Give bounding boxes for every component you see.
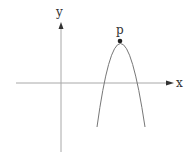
vertex-label: p [116,23,124,37]
vertex-point [118,39,123,44]
x-axis-arrow-icon [166,81,174,86]
parabola-curve [97,44,145,128]
x-axis-label: x [176,76,183,90]
y-axis-label: y [55,5,63,19]
parabola-diagram: x y p [0,0,194,160]
y-axis-arrow-icon [59,22,64,29]
